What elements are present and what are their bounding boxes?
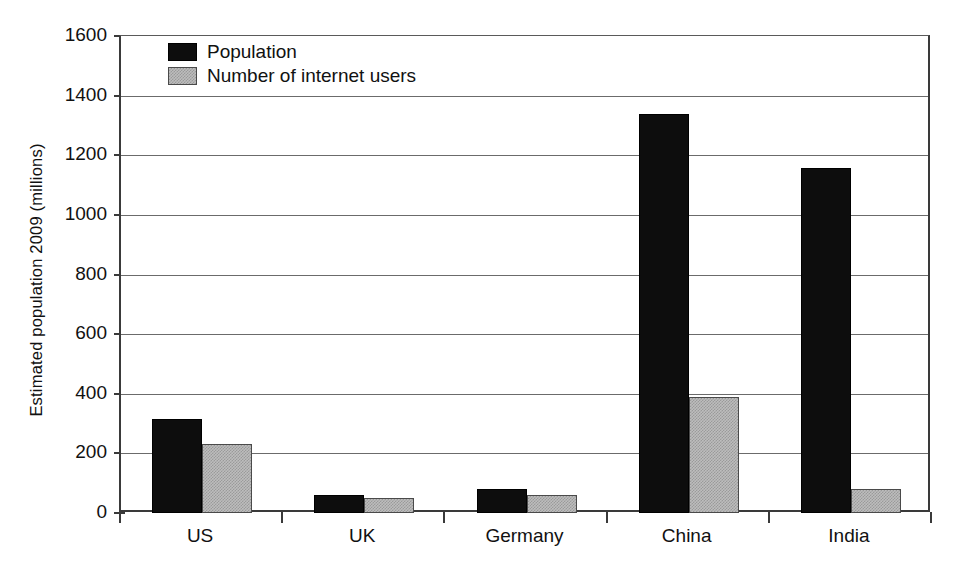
x-tick-label-china: China xyxy=(606,525,768,547)
x-tick-label-india: India xyxy=(768,525,930,547)
y-tick-label: 0 xyxy=(30,501,107,523)
y-tick-label: 1200 xyxy=(30,143,107,165)
y-tick-label: 600 xyxy=(30,322,107,344)
bar-us-internet-users xyxy=(202,444,252,513)
bar-germany-population xyxy=(477,489,527,513)
x-tick-mark xyxy=(930,512,932,523)
bar-india-internet-users xyxy=(851,489,901,513)
legend-swatch-internet-users xyxy=(168,67,197,85)
legend-item-population: Population xyxy=(168,42,416,61)
bar-germany-internet-users xyxy=(527,495,577,513)
legend-item-internet-users: Number of internet users xyxy=(168,66,416,85)
x-tick-mark xyxy=(281,512,283,523)
gridline xyxy=(121,155,928,156)
x-tick-mark xyxy=(768,512,770,523)
bar-uk-population xyxy=(314,495,364,513)
y-tick-label: 1000 xyxy=(30,203,107,225)
bar-china-population xyxy=(639,114,689,513)
x-tick-label-germany: Germany xyxy=(443,525,605,547)
x-tick-label-us: US xyxy=(119,525,281,547)
x-tick-mark xyxy=(606,512,608,523)
legend-swatch-population xyxy=(168,43,197,61)
bar-india-population xyxy=(801,168,851,513)
bar-us-population xyxy=(152,419,202,513)
x-tick-mark xyxy=(119,512,121,523)
legend-label-population: Population xyxy=(207,42,297,61)
plot-area xyxy=(119,35,930,512)
y-tick-label: 1400 xyxy=(30,84,107,106)
y-tick-label: 800 xyxy=(30,263,107,285)
legend-label-internet-users: Number of internet users xyxy=(207,66,416,85)
y-tick-label: 200 xyxy=(30,441,107,463)
x-tick-mark xyxy=(443,512,445,523)
chart-legend: Population Number of internet users xyxy=(168,42,416,85)
gridline xyxy=(121,96,928,97)
x-tick-label-uk: UK xyxy=(281,525,443,547)
bar-china-internet-users xyxy=(689,397,739,513)
bar-uk-internet-users xyxy=(364,498,414,513)
y-tick-label: 400 xyxy=(30,382,107,404)
bar-chart: Estimated population 2009 (millions) 020… xyxy=(0,0,964,576)
y-tick-label: 1600 xyxy=(30,24,107,46)
